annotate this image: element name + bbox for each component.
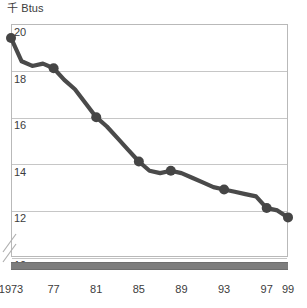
x-tick-label: 93: [218, 283, 230, 295]
x-tick-label: 89: [175, 283, 187, 295]
data-point-marker: [283, 212, 293, 222]
data-point-marker: [91, 112, 101, 122]
data-point-marker: [219, 184, 229, 194]
data-point-marker: [134, 156, 144, 166]
unit-label-suffix: Btus: [18, 2, 44, 14]
x-tick-label: 81: [90, 283, 102, 295]
data-point-marker: [262, 203, 272, 213]
x-tick-label: 99: [282, 283, 294, 295]
x-tick-label: 85: [133, 283, 145, 295]
x-axis-bar: [11, 262, 288, 270]
gridline: [12, 258, 287, 259]
x-tick-label: 1973: [0, 283, 23, 295]
data-point-marker: [166, 166, 176, 176]
unit-label: 千 Btus: [7, 2, 44, 15]
chart-root: 千 Btus 201816141210 197377818589939799: [0, 0, 307, 308]
x-tick-label: 77: [47, 283, 59, 295]
x-tick-label: 97: [261, 283, 273, 295]
unit-label-prefix: 千: [7, 2, 18, 15]
data-point-marker: [49, 63, 59, 73]
data-series-line: [11, 24, 288, 257]
data-point-marker: [6, 33, 16, 43]
